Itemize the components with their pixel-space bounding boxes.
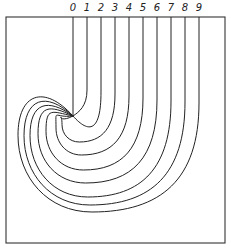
field-lines-group [18,17,199,212]
field-line-1 [73,17,87,116]
line-label-1: 1 [84,2,90,13]
line-label-7: 7 [168,2,175,13]
field-line-5 [46,17,143,170]
line-label-3: 3 [112,2,118,13]
line-label-8: 8 [182,2,188,13]
line-labels-group: 0123456789 [70,2,202,13]
line-label-9: 9 [196,2,202,13]
field-line-3 [61,17,115,142]
line-label-0: 0 [70,2,76,13]
field-line-4 [56,17,129,155]
field-line-9 [18,17,199,212]
line-label-6: 6 [154,2,160,13]
line-label-4: 4 [126,2,132,13]
field-line-8 [24,17,185,205]
line-label-5: 5 [140,2,146,13]
line-label-2: 2 [98,2,104,13]
field-lines-diagram: 0123456789 [0,0,231,250]
